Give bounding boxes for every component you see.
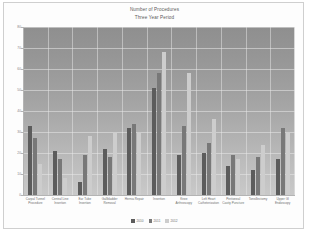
- bar-group: [48, 27, 73, 195]
- y-axis-ticks: 01020304050607080: [4, 27, 21, 195]
- bar[interactable]: [108, 157, 112, 195]
- x-tick-label: Gallbladder Removal: [97, 197, 122, 206]
- bar[interactable]: [256, 157, 260, 195]
- bar[interactable]: [187, 73, 191, 195]
- bar[interactable]: [231, 155, 235, 195]
- bar[interactable]: [132, 124, 136, 195]
- bar[interactable]: [78, 182, 82, 195]
- x-axis-line: [23, 195, 295, 196]
- y-tick-label: 10: [5, 172, 21, 176]
- bar[interactable]: [286, 132, 290, 195]
- bar[interactable]: [281, 128, 285, 195]
- bar-group: [196, 27, 221, 195]
- x-tick-label: Ear Tube Insertion: [72, 197, 97, 206]
- bar[interactable]: [63, 178, 67, 195]
- bar-group: [23, 27, 48, 195]
- bar[interactable]: [83, 155, 87, 195]
- x-axis-labels: Carpal Tunnel ProcedureCentral Line Inse…: [23, 197, 295, 206]
- bar[interactable]: [157, 73, 161, 195]
- x-tick-label: Central Line Insertion: [48, 197, 73, 206]
- legend-item[interactable]: 2010: [131, 219, 143, 223]
- bar[interactable]: [261, 145, 265, 195]
- x-tick-label: Carpal Tunnel Procedure: [23, 197, 48, 206]
- x-tick-label: Knee Arthroscopy: [171, 197, 196, 206]
- y-tick-label: 80: [5, 25, 21, 29]
- bar-group: [147, 27, 172, 195]
- bar[interactable]: [251, 170, 255, 195]
- chart-screenshot: Number of Procedures Three Year Period 0…: [0, 0, 309, 234]
- bar-group: [270, 27, 295, 195]
- bar-group: [246, 27, 271, 195]
- bar-group: [97, 27, 122, 195]
- x-tick-label: Insertion: [147, 197, 172, 206]
- chart-frame: Number of Procedures Three Year Period 0…: [3, 2, 304, 229]
- bar[interactable]: [113, 132, 117, 195]
- bar-group: [221, 27, 246, 195]
- bar[interactable]: [152, 88, 156, 195]
- x-tick-label: Hernia Repair: [122, 197, 147, 206]
- bar[interactable]: [53, 151, 57, 195]
- legend-swatch: [165, 219, 169, 223]
- y-tick-label: 40: [5, 109, 21, 113]
- bar[interactable]: [236, 159, 240, 195]
- bar[interactable]: [276, 159, 280, 195]
- y-tick-label: 30: [5, 130, 21, 134]
- x-tick-label: Left Heart Catheterization: [196, 197, 221, 206]
- legend-label: 2011: [154, 219, 161, 223]
- bar[interactable]: [137, 132, 141, 195]
- bar[interactable]: [182, 126, 186, 195]
- x-tick-label: Tonsillectomy: [246, 197, 271, 206]
- legend-item[interactable]: 2011: [149, 219, 161, 223]
- legend-swatch: [131, 219, 135, 223]
- bar[interactable]: [103, 149, 107, 195]
- y-tick-label: 60: [5, 67, 21, 71]
- chart-subtitle: Three Year Period: [4, 14, 305, 22]
- bar-groups: [23, 27, 295, 195]
- bar[interactable]: [226, 166, 230, 195]
- y-tick-label: 50: [5, 88, 21, 92]
- chart-title: Number of Procedures: [4, 6, 305, 14]
- y-tick-label: 20: [5, 151, 21, 155]
- bar-group: [122, 27, 147, 195]
- legend-item[interactable]: 2012: [165, 219, 177, 223]
- legend-swatch: [149, 219, 153, 223]
- bar[interactable]: [88, 136, 92, 195]
- bar[interactable]: [202, 153, 206, 195]
- x-tick-label: Peritoneal Cavity Puncture: [221, 197, 246, 206]
- legend-label: 2012: [170, 219, 177, 223]
- bar[interactable]: [177, 155, 181, 195]
- bar[interactable]: [127, 128, 131, 195]
- bar[interactable]: [207, 143, 211, 196]
- bar[interactable]: [212, 119, 216, 195]
- chart-legend: 201020112012: [4, 219, 305, 223]
- legend-label: 2010: [136, 219, 143, 223]
- bar-group: [171, 27, 196, 195]
- chart-title-block: Number of Procedures Three Year Period: [4, 6, 305, 21]
- bar[interactable]: [162, 52, 166, 195]
- x-tick-label: Upper GI Endoscopy: [270, 197, 295, 206]
- bar[interactable]: [28, 126, 32, 195]
- bar[interactable]: [33, 138, 37, 195]
- bar-group: [72, 27, 97, 195]
- y-tick-label: 0: [5, 193, 21, 197]
- y-tick-label: 70: [5, 46, 21, 50]
- bar[interactable]: [38, 164, 42, 196]
- bar[interactable]: [58, 159, 62, 195]
